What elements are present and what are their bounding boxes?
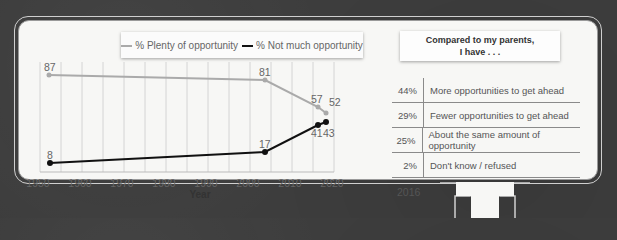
table-title-line1: Compared to my parents, [400, 34, 560, 46]
legend-item-notmuch: % Not much opportunity [242, 40, 363, 51]
legend-swatch-notmuch [242, 45, 253, 48]
label-plenty-1: 81 [259, 66, 271, 78]
x-tick-2020: 2020 [320, 177, 344, 189]
table-title-box: Compared to my parents, I have . . . [400, 31, 560, 61]
comparison-table: 44% More opportunities to get ahead 29% … [392, 78, 580, 178]
chart-legend: % Plenty of opportunity % Not much oppor… [121, 32, 363, 58]
series-notmuch-points [47, 119, 329, 166]
x-tick-1960: 1960 [68, 177, 92, 189]
panel-connector-decoration [440, 182, 530, 218]
row-label: More opportunities to get ahead [424, 85, 564, 96]
legend-label-plenty: % Plenty of opportunity [135, 40, 238, 51]
legend-swatch-plenty [121, 45, 132, 47]
table-row: 25% About the same amount of opportunity [392, 128, 580, 153]
row-value: 25% [392, 128, 423, 152]
x-tick-1980: 1980 [152, 177, 176, 189]
row-value: 29% [392, 103, 424, 127]
x-tick-1970: 1970 [110, 177, 134, 189]
row-label: Fewer opportunities to get ahead [424, 110, 569, 121]
row-value: 44% [392, 78, 424, 102]
legend-item-plenty: % Plenty of opportunity [121, 40, 238, 51]
row-label: Don't know / refused [424, 160, 516, 171]
label-notmuch-3: 43 [323, 127, 335, 139]
label-plenty-2: 57 [311, 93, 323, 105]
label-notmuch-1: 17 [259, 138, 271, 150]
x-tick-1950: 1950 [26, 177, 50, 189]
x-tick-2000: 2000 [236, 177, 260, 189]
label-plenty-3: 52 [329, 96, 341, 108]
label-notmuch-0: 8 [47, 149, 53, 161]
legend-label-notmuch: % Not much opportunity [256, 40, 363, 51]
table-row: 29% Fewer opportunities to get ahead [392, 103, 580, 128]
table-row: 44% More opportunities to get ahead [392, 78, 580, 103]
x-tick-1990: 1990 [194, 177, 218, 189]
table-title-line2: I have . . . [400, 46, 560, 58]
table-year-label: 2016 [397, 186, 420, 198]
x-tick-2010: 2010 [278, 177, 302, 189]
x-axis-title: Year [189, 189, 210, 200]
series-notmuch-line [50, 122, 326, 163]
label-plenty-0: 87 [44, 61, 56, 73]
label-notmuch-2: 41 [311, 127, 323, 139]
row-value: 2% [392, 153, 424, 177]
row-label: About the same amount of opportunity [423, 129, 580, 151]
table-row: 2% Don't know / refused [392, 153, 580, 178]
